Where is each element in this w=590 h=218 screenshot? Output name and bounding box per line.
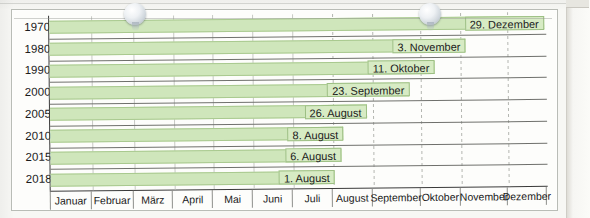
x-axis-category-band: JanuarFebruarMärzAprilMaiJuniJuliAugustS…	[50, 187, 548, 210]
y-axis-tick-2005: 2005	[17, 108, 51, 120]
x-axis-tick-september: September	[373, 188, 421, 206]
y-axis-tick-2018: 2018	[18, 173, 52, 185]
scan-line-top	[0, 3, 566, 4]
y-axis-tick-2010: 2010	[17, 129, 51, 141]
x-axis-tick-april: April	[173, 190, 213, 208]
plot-area: 29. Dezember3. November11. Oktober23. Se…	[49, 12, 548, 191]
y-axis-tick-2015: 2015	[17, 151, 51, 163]
row-separator	[49, 34, 546, 40]
x-axis-tick-august: August	[333, 189, 373, 207]
bar-value-label-2005: 26. August	[304, 104, 366, 119]
x-axis-tick-mai: Mai	[213, 190, 253, 208]
bar-value-label-2010: 8. August	[287, 126, 343, 141]
bead-marker-right-shadow	[427, 22, 434, 31]
scan-line-frame-top	[14, 18, 552, 19]
row-separator	[51, 164, 548, 170]
y-axis-labels: 19701980199020002005201020152018	[14, 10, 52, 188]
y-axis-tick-1970: 1970	[16, 21, 50, 33]
y-axis-tick-1980: 1980	[16, 42, 50, 54]
bar-value-label-2000: 23. September	[327, 82, 409, 97]
x-axis-tick-juni: Juni	[253, 189, 293, 207]
y-axis-tick-2000: 2000	[17, 86, 51, 98]
page-right-edge	[566, 0, 590, 218]
bead-marker-left-shadow	[132, 22, 139, 31]
bar-value-label-1980: 3. November	[392, 38, 465, 53]
x-axis-tick-oktober: Oktober	[420, 188, 461, 206]
y-axis-tick-1990: 1990	[17, 64, 51, 76]
x-axis-tick-januar: Januar	[50, 191, 92, 209]
x-axis-tick-november: November	[461, 187, 508, 205]
bar-value-label-2018: 1. August	[279, 170, 335, 185]
bar-value-label-2015: 6. August	[285, 148, 341, 163]
row-separator	[50, 121, 547, 127]
x-axis-tick-märz: März	[133, 190, 173, 208]
row-separator	[50, 99, 547, 105]
x-axis-tick-juli: Juli	[293, 189, 333, 207]
bar-value-label-1990: 11. Oktober	[368, 60, 435, 75]
row-separator	[49, 55, 546, 61]
bar-chart: 19701980199020002005201020152018 29. Dez…	[12, 5, 559, 210]
row-separator	[50, 142, 547, 148]
x-axis-tick-februar: Februar	[92, 191, 134, 209]
x-axis-tick-dezember: Dezember	[508, 187, 547, 205]
row-separator	[50, 77, 547, 83]
page-right-edge-top	[566, 0, 589, 8]
chart-frame: 19701980199020002005201020152018 29. Dez…	[11, 9, 558, 211]
